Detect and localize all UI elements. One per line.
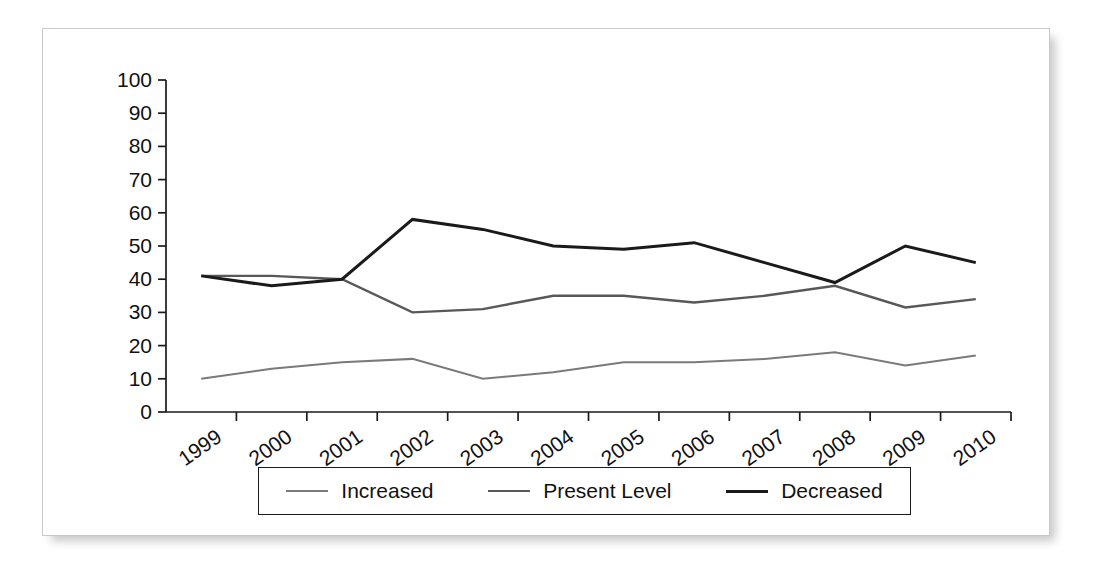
svg-text:2004: 2004 <box>526 424 578 470</box>
series-decreased <box>201 219 976 285</box>
chart-card: 0102030405060708090100 19992000200120022… <box>42 28 1050 536</box>
svg-text:50: 50 <box>129 234 152 257</box>
svg-text:1999: 1999 <box>174 424 225 470</box>
svg-text:2006: 2006 <box>667 424 718 470</box>
legend-entry-present-level: Present Level <box>488 479 671 503</box>
svg-text:2010: 2010 <box>949 424 1000 470</box>
svg-text:100: 100 <box>117 68 152 91</box>
svg-text:2009: 2009 <box>878 424 929 470</box>
legend-swatch-increased <box>286 490 328 492</box>
legend-label-increased: Increased <box>341 479 433 503</box>
legend-swatch-present-level <box>488 490 530 492</box>
chart-legend: Increased Present Level Decreased <box>258 467 911 515</box>
svg-text:60: 60 <box>129 201 152 224</box>
legend-entry-increased: Increased <box>286 479 433 503</box>
svg-text:10: 10 <box>129 367 152 390</box>
svg-text:2003: 2003 <box>456 424 507 470</box>
line-chart: 0102030405060708090100 19992000200120022… <box>43 29 1051 537</box>
svg-text:2008: 2008 <box>808 424 859 470</box>
legend-label-decreased: Decreased <box>781 479 883 503</box>
svg-text:30: 30 <box>129 300 152 323</box>
svg-text:2002: 2002 <box>385 424 436 470</box>
legend-swatch-decreased <box>726 490 768 493</box>
svg-text:2001: 2001 <box>315 424 366 470</box>
plot-area: 0102030405060708090100 19992000200120022… <box>43 29 1051 537</box>
series-lines <box>201 219 976 378</box>
svg-text:2000: 2000 <box>244 424 295 470</box>
svg-text:90: 90 <box>129 101 152 124</box>
chart-page: 0102030405060708090100 19992000200120022… <box>0 0 1100 587</box>
svg-text:0: 0 <box>140 400 152 423</box>
legend-entry-decreased: Decreased <box>726 479 883 503</box>
svg-text:2007: 2007 <box>737 424 788 470</box>
svg-text:20: 20 <box>129 334 152 357</box>
series-increased <box>201 352 976 379</box>
svg-text:40: 40 <box>129 267 152 290</box>
svg-text:2005: 2005 <box>597 424 648 470</box>
y-axis: 0102030405060708090100 <box>117 68 166 423</box>
svg-text:70: 70 <box>129 168 152 191</box>
legend-label-present-level: Present Level <box>543 479 671 503</box>
svg-text:80: 80 <box>129 134 152 157</box>
x-axis: 1999200020012002200320042005200620072008… <box>166 412 1011 470</box>
